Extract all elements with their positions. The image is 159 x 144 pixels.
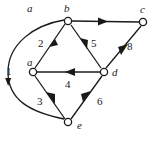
arrowhead-b-d xyxy=(80,38,88,49)
arrowhead-b-c xyxy=(98,18,108,26)
edge-d-a xyxy=(37,68,100,76)
node-label-a-placed: a xyxy=(27,57,33,68)
node-c[interactable] xyxy=(139,18,146,25)
edge-label-e-d: 6 xyxy=(97,96,103,107)
node-d[interactable] xyxy=(100,68,107,75)
node-label-b: b xyxy=(64,3,70,14)
edge-label-b-d: 5 xyxy=(91,38,97,49)
directed-graph-figure: a b c d e a 2 5 4 8 3 6 1 xyxy=(0,0,159,144)
node-label-d: d xyxy=(112,67,118,78)
edge-label-a-b: 2 xyxy=(38,38,44,49)
node-label-a: a xyxy=(27,3,33,14)
node-label-c: c xyxy=(140,4,145,15)
edge-label-e-b: 1 xyxy=(6,66,12,77)
edge-d-c xyxy=(106,26,141,68)
edge-b-c xyxy=(72,18,139,26)
node-a[interactable] xyxy=(29,68,36,75)
node-label-e: e xyxy=(77,120,82,131)
node-e[interactable] xyxy=(64,118,71,125)
edge-label-a-e: 3 xyxy=(37,96,43,107)
edge-label-d-c: 8 xyxy=(127,41,133,52)
arrowhead-d-a xyxy=(65,68,75,76)
arrowhead-e-d xyxy=(81,91,91,102)
edge-label-d-a: 4 xyxy=(65,79,71,90)
node-b[interactable] xyxy=(64,17,71,24)
